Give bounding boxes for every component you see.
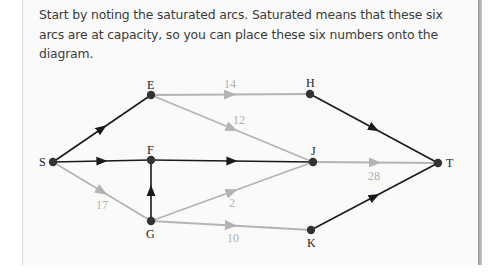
edge-G-K: [151, 221, 311, 230]
edge-F-J: [151, 160, 313, 162]
node-label-H: H: [306, 76, 315, 90]
edge-J-T: [313, 162, 438, 163]
edge-S-E: [53, 95, 151, 162]
edge-label-J-T: 28: [368, 169, 380, 183]
edge-E-H: [151, 94, 310, 95]
node-H: [306, 90, 314, 98]
node-K: [307, 226, 315, 234]
node-label-G: G: [146, 227, 155, 241]
node-label-K: K: [307, 236, 316, 250]
node-label-E: E: [147, 78, 154, 92]
edge-E-J: [151, 95, 313, 162]
edge-S-F: [53, 160, 151, 162]
node-label-T: T: [446, 156, 454, 170]
edge-label-G-K: 10: [227, 231, 239, 245]
edge-H-T: [310, 94, 438, 163]
node-G: [147, 217, 155, 225]
edge-label-E-J: 12: [233, 113, 245, 127]
network-flow-diagram: 14 12 28 17 2 10 S E F G H J K T: [0, 0, 499, 277]
edge-label-S-G: 17: [96, 198, 108, 212]
node-F: [147, 156, 155, 164]
node-label-S: S: [39, 155, 46, 169]
edge-S-G: [53, 162, 151, 221]
node-E: [147, 91, 155, 99]
edge-label-G-J: 2: [229, 196, 235, 210]
node-label-F: F: [147, 143, 154, 157]
node-T: [434, 159, 442, 167]
node-S: [49, 158, 57, 166]
node-label-J: J: [311, 144, 316, 158]
edge-label-E-H: 14: [224, 77, 236, 91]
edge-G-J: [151, 162, 313, 221]
node-J: [309, 158, 317, 166]
